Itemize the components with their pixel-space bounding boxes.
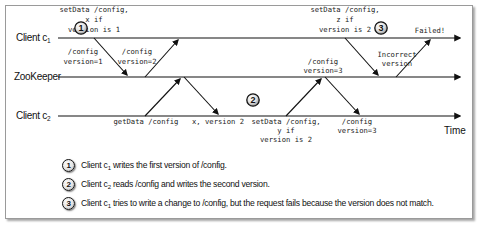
svg-text:version=2: version=2: [118, 57, 157, 66]
legend: 1 Client c1 writes the first version of …: [62, 156, 462, 213]
svg-text:2: 2: [250, 95, 255, 105]
label-c2-getdata-reply: x, version 2: [192, 117, 244, 126]
svg-text:/config: /config: [68, 47, 98, 56]
svg-text:setData /config,: setData /config,: [310, 5, 379, 14]
arrow-c2-getdata: [145, 79, 180, 116]
arrow-zk-getdata-reply: [184, 77, 218, 114]
label-incorrect-version: Incorrect version: [378, 50, 417, 68]
svg-text:y if: y if: [277, 126, 294, 135]
svg-text:version: version: [382, 59, 412, 68]
label-c1-setdata-2: setData /config, z if version is 2: [310, 5, 379, 34]
svg-text:/config: /config: [122, 47, 152, 56]
svg-text:version=1: version=1: [64, 57, 103, 66]
svg-text:version=3: version=3: [304, 66, 343, 75]
svg-text:version=3: version=3: [338, 126, 377, 135]
arrow-zk-setdata-reply: [325, 77, 359, 114]
legend-text-1: Client c1 writes the first version of /c…: [81, 160, 227, 171]
callout-2-icon: 2: [62, 178, 75, 191]
lane-label-zookeeper: ZooKeeper: [14, 71, 62, 82]
svg-text:setData /config,: setData /config,: [251, 117, 320, 126]
legend-item-2: 2 Client c2 reads /config and writes the…: [62, 175, 462, 194]
legend-text-3: Client c1 tries to write a change to /co…: [81, 198, 434, 209]
callout-1: 1: [75, 22, 87, 34]
lane-label-client-c2: Client c2: [16, 110, 51, 122]
svg-text:z if: z if: [336, 15, 353, 24]
callout-3: 3: [375, 22, 387, 34]
label-zk-version3: /config version=3: [304, 57, 343, 75]
lane-label-client-c1: Client c1: [16, 32, 51, 44]
legend-text-2: Client c2 reads /config and writes the s…: [81, 179, 270, 190]
label-c1-setdata: setData /config, x if version is 1: [59, 5, 128, 34]
callout-1-icon: 1: [62, 159, 75, 172]
arrow-c2-setdata: [286, 79, 321, 116]
svg-text:setData /config,: setData /config,: [59, 5, 128, 14]
label-zk-reply-2: /config version=2: [118, 47, 157, 66]
callout-3-icon: 3: [62, 197, 75, 210]
svg-text:3: 3: [378, 23, 383, 33]
label-zk-reply-1: /config version=1: [64, 47, 103, 66]
label-c2-setdata-reply: /config version=3: [338, 117, 377, 135]
time-axis-label: Time: [444, 125, 466, 136]
svg-text:/config: /config: [342, 117, 372, 126]
svg-text:Incorrect: Incorrect: [378, 50, 417, 59]
svg-text:version is 2: version is 2: [260, 135, 312, 144]
label-c2-setdata: setData /config, y if version is 2: [251, 117, 320, 144]
svg-text:/config: /config: [308, 57, 338, 66]
svg-text:x if: x if: [85, 15, 102, 24]
label-failed: Failed!: [415, 26, 445, 35]
label-c2-getdata: getData /config: [114, 117, 179, 126]
legend-item-3: 3 Client c1 tries to write a change to /…: [62, 194, 462, 213]
svg-text:1: 1: [78, 23, 83, 33]
arrow-c1-setdata-2: [345, 38, 378, 75]
callout-2: 2: [247, 94, 259, 106]
legend-item-1: 1 Client c1 writes the first version of …: [62, 156, 462, 175]
svg-text:version is 2: version is 2: [319, 25, 371, 34]
